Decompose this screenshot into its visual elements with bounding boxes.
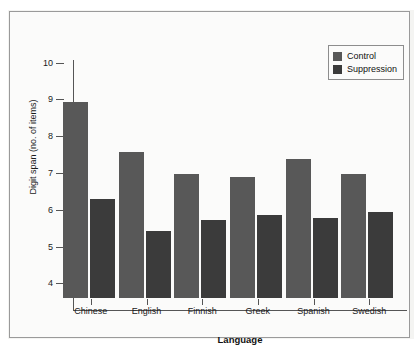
legend-swatch-suppression-icon	[333, 65, 342, 74]
bar-finnish-suppression	[201, 220, 226, 298]
x-axis-tick	[91, 299, 92, 305]
bar-greek-control	[230, 177, 255, 298]
x-axis-tick-label-chinese: Chinese	[61, 306, 121, 316]
bar-swedish-control	[341, 174, 366, 298]
legend-item-control: Control	[333, 50, 397, 62]
y-axis-tick	[56, 63, 64, 64]
page-edge-top	[0, 0, 414, 10]
y-axis-title: Digit span (no. of items)	[28, 67, 38, 227]
bar-swedish-suppression	[368, 212, 393, 298]
bar-finnish-control	[174, 174, 199, 298]
bar-chinese-suppression	[90, 199, 115, 298]
bar-chinese-control	[63, 102, 88, 298]
bar-spanish-suppression	[313, 218, 338, 298]
legend-swatch-control-icon	[333, 52, 342, 61]
y-axis-tick-label: 5	[20, 242, 53, 252]
legend-label-suppression: Suppression	[347, 65, 397, 74]
chart-legend: Control Suppression	[328, 45, 404, 80]
x-axis-tick-label-spanish: Spanish	[284, 306, 344, 316]
scanned-page: 45678910 ChineseEnglishFinnishGreekSpani…	[0, 0, 414, 347]
page-edge-left	[0, 0, 8, 347]
x-axis-tick	[202, 299, 203, 305]
x-axis-tick	[369, 299, 370, 305]
x-axis-tick-label-finnish: Finnish	[172, 306, 232, 316]
x-axis-tick	[258, 299, 259, 305]
figure-frame: 45678910 ChineseEnglishFinnishGreekSpani…	[9, 11, 410, 338]
bar-greek-suppression	[257, 215, 282, 298]
x-axis-tick-label-swedish: Swedish	[339, 306, 399, 316]
x-axis-title: Language	[73, 334, 407, 345]
bar-english-suppression	[146, 231, 171, 298]
x-axis-tick-label-greek: Greek	[228, 306, 288, 316]
y-axis-tick-label: 4	[20, 278, 53, 288]
y-axis-tick	[56, 99, 64, 100]
legend-item-suppression: Suppression	[333, 63, 397, 75]
x-axis-tick	[147, 299, 148, 305]
bar-english-control	[119, 152, 144, 298]
x-axis-tick-label-english: English	[117, 306, 177, 316]
bar-spanish-control	[286, 159, 311, 298]
legend-label-control: Control	[347, 52, 376, 61]
x-axis-tick	[314, 299, 315, 305]
